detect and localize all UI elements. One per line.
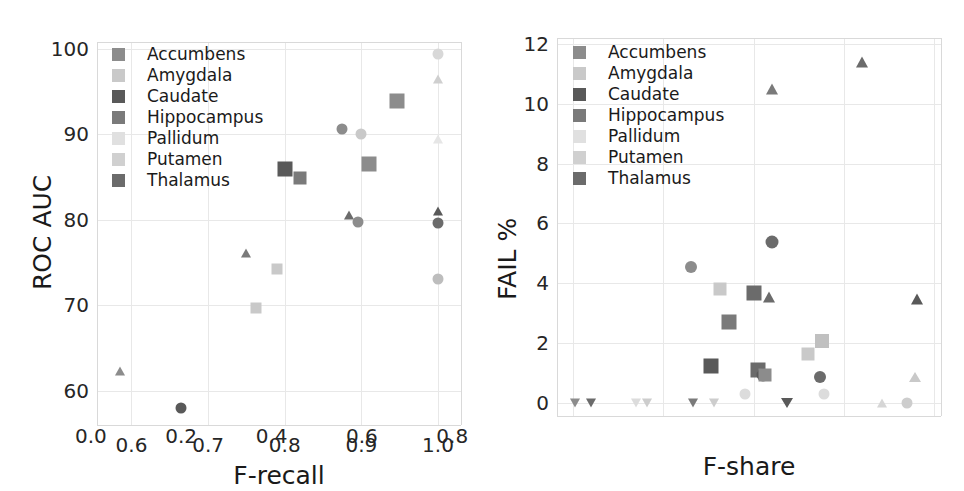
gridline-horizontal: [97, 220, 461, 221]
data-point-square: [758, 369, 771, 382]
legend-item-label: Amygdala: [608, 65, 693, 82]
legend-item-caudate[interactable]: Caudate: [112, 86, 263, 107]
y-tick-label: 90: [35, 124, 89, 144]
x-tick-label: 0.2: [165, 426, 197, 446]
y-axis-title-left: ROC AUC: [30, 175, 55, 290]
y-tick-label: 2: [495, 333, 549, 353]
legend-swatch-icon: [573, 151, 586, 164]
gridline-vertical: [438, 42, 439, 425]
data-point-triangle-down: [709, 398, 719, 407]
x-tick-label: 0.8: [436, 426, 468, 446]
legend-item-caudate[interactable]: Caudate: [573, 84, 724, 105]
data-point-square: [801, 348, 814, 361]
data-point-circle: [814, 371, 826, 383]
data-point-circle: [740, 389, 751, 400]
data-point-circle: [353, 216, 364, 227]
legend-item-label: Accumbens: [608, 44, 706, 61]
data-point-triangle-down: [631, 398, 641, 407]
data-point-circle: [433, 218, 444, 229]
legend-item-amygdala[interactable]: Amygdala: [112, 65, 263, 86]
data-point-triangle-down: [570, 398, 580, 407]
legend-swatch-icon: [573, 88, 586, 101]
spine-left: [557, 38, 558, 416]
legend-item-amygdala[interactable]: Amygdala: [573, 63, 724, 84]
legend-item-label: Amygdala: [147, 67, 232, 84]
gridline-vertical: [934, 38, 935, 416]
gridline-vertical: [844, 38, 845, 416]
legend-item-label: Pallidum: [608, 128, 680, 145]
legend-item-accumbens[interactable]: Accumbens: [573, 42, 724, 63]
legend-item-label: Thalamus: [608, 170, 691, 187]
legend-item-label: Caudate: [608, 86, 679, 103]
gridline-horizontal: [557, 223, 941, 224]
data-point-triangle-down: [688, 398, 698, 407]
legend-item-putamen[interactable]: Putamen: [573, 147, 724, 168]
spine-top: [557, 38, 941, 39]
gridline-horizontal: [97, 391, 461, 392]
legend-item-putamen[interactable]: Putamen: [112, 149, 263, 170]
legend-item-label: Pallidum: [147, 130, 219, 147]
x-tick-label: 0.6: [346, 426, 378, 446]
y-axis-title-right: FAIL %: [495, 218, 520, 300]
data-point-circle: [337, 124, 348, 135]
legend-swatch-icon: [112, 111, 125, 124]
legend-swatch-icon: [573, 130, 586, 143]
legend-item-label: Hippocampus: [147, 109, 263, 126]
legend-item-thalamus[interactable]: Thalamus: [573, 168, 724, 189]
spine-right: [461, 42, 462, 425]
y-tick-label: 0: [495, 393, 549, 413]
data-point-square: [815, 334, 829, 348]
data-point-square: [294, 171, 307, 184]
legend-item-hippocampus[interactable]: Hippocampus: [573, 105, 724, 126]
x-tick-label: 0.4: [256, 426, 288, 446]
data-point-triangle-up: [856, 56, 868, 67]
legend-swatch-icon: [112, 69, 125, 82]
y-tick-label: 60: [35, 381, 89, 401]
data-point-circle: [685, 261, 697, 273]
x-axis-title-right: F-share: [703, 454, 796, 479]
data-point-triangle-up: [241, 249, 251, 258]
data-point-circle: [433, 273, 444, 284]
legend-swatch-icon: [573, 172, 586, 185]
legend-item-label: Caudate: [147, 88, 218, 105]
panel-left: 0.60.70.80.91.060708090100 F-recall ROC …: [0, 0, 482, 491]
y-tick-label: 70: [35, 295, 89, 315]
data-point-triangle-up: [763, 292, 775, 303]
data-point-triangle-down: [642, 398, 652, 407]
data-point-circle: [818, 389, 829, 400]
x-tick-label: 0.6: [116, 435, 148, 455]
data-point-triangle-up: [877, 398, 887, 407]
data-point-triangle-up: [911, 293, 923, 304]
spine-left: [97, 42, 98, 425]
legend-swatch-icon: [573, 46, 586, 59]
legend-item-pallidum[interactable]: Pallidum: [112, 128, 263, 149]
data-point-square: [362, 157, 377, 172]
legend-item-accumbens[interactable]: Accumbens: [112, 44, 263, 65]
y-tick-label: 8: [495, 154, 549, 174]
y-tick-label: 10: [495, 94, 549, 114]
legend-swatch-icon: [112, 90, 125, 103]
legend-item-thalamus[interactable]: Thalamus: [112, 170, 263, 191]
y-tick-label: 12: [495, 34, 549, 54]
data-point-triangle-up: [909, 372, 921, 382]
data-point-triangle-up: [433, 74, 443, 83]
spine-right: [941, 38, 942, 416]
x-axis-title-left: F-recall: [233, 463, 324, 488]
data-point-triangle-up: [115, 367, 125, 376]
x-tick-label: 0.0: [75, 426, 107, 446]
gridline-vertical: [285, 42, 286, 425]
legend-swatch-icon: [112, 132, 125, 145]
y-tick-label: 100: [35, 39, 89, 59]
spine-bottom: [557, 416, 941, 417]
panel-right: 0.00.20.40.60.8024681012 F-share FAIL % …: [482, 0, 964, 491]
legend-swatch-icon: [112, 153, 125, 166]
data-point-square: [272, 263, 283, 274]
data-point-circle: [902, 397, 913, 408]
legend-item-hippocampus[interactable]: Hippocampus: [112, 107, 263, 128]
legend-item-pallidum[interactable]: Pallidum: [573, 126, 724, 147]
legend-swatch-icon: [573, 67, 586, 80]
gridline-vertical: [754, 38, 755, 416]
data-point-square: [251, 302, 262, 313]
data-point-triangle-up: [433, 207, 443, 216]
data-point-circle: [356, 129, 367, 140]
